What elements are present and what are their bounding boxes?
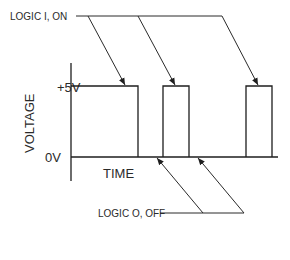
logic-off-arrow-2 bbox=[198, 158, 244, 213]
logic-on-arrow-3 bbox=[222, 16, 258, 85]
high-level-label: +5V bbox=[57, 80, 81, 95]
logic-levels-diagram: LOGIC I, ON +5V 0V VOLTAGE TIME LOGIC O,… bbox=[0, 0, 290, 260]
low-level-label: 0V bbox=[45, 150, 61, 165]
y-axis-label: VOLTAGE bbox=[22, 93, 37, 153]
logic-off-arrow-1 bbox=[157, 158, 203, 213]
x-axis-label: TIME bbox=[103, 166, 134, 181]
logic-on-arrow-2 bbox=[138, 16, 175, 85]
logic-on-arrow-1 bbox=[88, 16, 125, 85]
diagram-canvas: LOGIC I, ON +5V 0V VOLTAGE TIME LOGIC O,… bbox=[0, 0, 290, 260]
logic-on-label: LOGIC I, ON bbox=[10, 11, 67, 22]
square-wave-signal bbox=[71, 86, 272, 157]
logic-off-label: LOGIC O, OFF bbox=[98, 208, 165, 219]
